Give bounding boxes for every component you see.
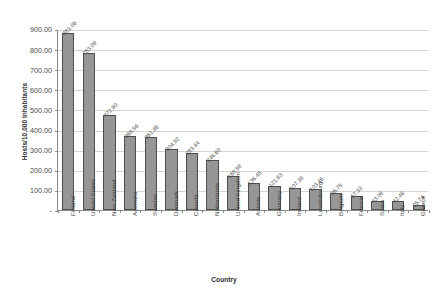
x-axis-tickmark (223, 210, 224, 213)
x-axis-category-label: Austria (255, 197, 261, 216)
gridline (58, 50, 428, 51)
y-axis-tick-label: 700.00 (10, 67, 52, 74)
x-axis-tickmark (99, 210, 100, 213)
x-axis-category-label: Belgium (338, 194, 344, 216)
y-axis-tickmark (55, 90, 58, 91)
x-axis-tickmark (429, 210, 430, 213)
bar (62, 33, 74, 210)
y-axis-tickmark (55, 131, 58, 132)
x-axis-title: Country (0, 276, 448, 283)
x-axis-tickmark (120, 210, 121, 213)
x-axis-category-label: Germany (276, 191, 282, 216)
x-axis-tickmark (58, 210, 59, 213)
y-axis-tick-label: 100.00 (10, 187, 52, 194)
x-axis-tickmark (326, 210, 327, 213)
x-axis-tickmark (367, 210, 368, 213)
x-axis-category-label: Denmark (173, 191, 179, 216)
x-axis-category-label: Australia (132, 192, 138, 216)
x-axis-tickmark (202, 210, 203, 213)
x-axis-tickmark (388, 210, 389, 213)
x-axis-tickmark (347, 210, 348, 213)
y-axis-tick-label: - (10, 207, 52, 214)
x-axis-tickmark (182, 210, 183, 213)
x-axis-category-label: Greece (420, 196, 426, 216)
y-axis-tick-label: 900.00 (10, 26, 52, 33)
x-axis-tickmark (79, 210, 80, 213)
gridline (58, 70, 428, 71)
y-axis-tick-label: 800.00 (10, 47, 52, 54)
x-axis-tickmark (161, 210, 162, 213)
x-axis-category-label: Canada (193, 194, 199, 216)
x-axis-tickmark (264, 210, 265, 213)
x-axis-tickmark (285, 210, 286, 213)
x-axis-category-label: Sweden (152, 194, 158, 216)
y-axis-tick-label: 600.00 (10, 87, 52, 94)
x-axis-category-label: France (358, 197, 364, 216)
y-axis-tickmark (55, 30, 58, 31)
y-axis-tick-label: 200.00 (10, 167, 52, 174)
chart-figure: Hosts/10,000 Inhabitants 900.00800.00700… (0, 0, 448, 298)
x-axis-category-label: Spain (379, 200, 385, 216)
y-axis-tick-labels: 900.00800.00700.00600.00500.00400.00300.… (10, 0, 52, 298)
y-axis-tickmark (55, 70, 58, 71)
x-axis-tickmark (408, 210, 409, 213)
gridline (58, 30, 428, 31)
x-axis-category-label: Italy (399, 205, 405, 216)
x-axis-category-label: New Zealand (111, 180, 117, 216)
x-axis-tickmark (305, 210, 306, 213)
y-axis-tick-label: 500.00 (10, 107, 52, 114)
x-axis-tickmark (244, 210, 245, 213)
y-axis-tick-label: 300.00 (10, 147, 52, 154)
y-axis-tickmark (55, 110, 58, 111)
y-axis-tickmark (55, 191, 58, 192)
gridline (58, 90, 428, 91)
x-axis-category-label: Finland (70, 196, 76, 216)
x-axis-category-label: United Kingdom (235, 172, 241, 216)
y-axis-tickmark (55, 171, 58, 172)
y-axis-tickmark (55, 50, 58, 51)
y-axis-tick-label: 400.00 (10, 127, 52, 134)
x-axis-category-label: Ireland (296, 197, 302, 216)
x-axis-category-label: Netherlands (214, 183, 220, 216)
x-axis-category-label: United States (90, 179, 96, 216)
y-axis-tickmark (55, 151, 58, 152)
x-axis-tickmark (140, 210, 141, 213)
x-axis-category-label: Luxembourg (317, 182, 323, 216)
